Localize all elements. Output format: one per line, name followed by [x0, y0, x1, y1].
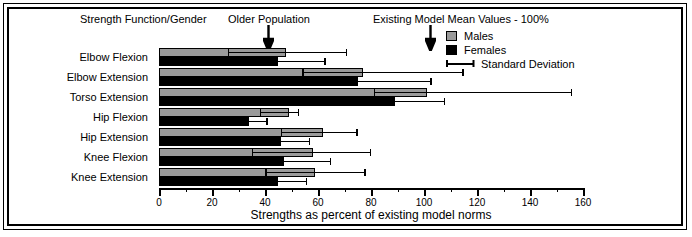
x-tick-major	[265, 188, 267, 196]
error-bar	[305, 81, 432, 83]
error-bar-cap	[345, 98, 347, 105]
error-bar-cap	[265, 169, 267, 176]
error-bar	[302, 72, 464, 74]
error-bar	[236, 161, 331, 163]
error-bar-cap	[374, 89, 376, 96]
figure-container: Strength Function/Gender Older Populatio…	[0, 0, 692, 237]
error-bar-cap	[309, 138, 311, 145]
x-tick-minor	[239, 188, 241, 192]
x-tick-minor	[557, 188, 559, 192]
x-tick-major	[318, 188, 320, 196]
error-bar	[252, 141, 310, 143]
x-tick-label: 100	[416, 197, 433, 208]
males-swatch-icon	[446, 31, 457, 41]
x-tick-minor	[345, 188, 347, 192]
x-tick-minor	[292, 188, 294, 192]
x-tick-major	[159, 188, 161, 196]
category-label: Torso Extension	[70, 92, 148, 103]
error-bar	[265, 172, 366, 174]
error-bar-cap	[281, 129, 283, 136]
error-bar-cap	[228, 58, 230, 65]
error-bar	[246, 181, 307, 183]
header-older-population: Older Population	[228, 13, 310, 25]
error-bar-cap	[228, 49, 230, 56]
x-tick-label: 40	[259, 197, 270, 208]
category-axis-labels: Elbow FlexionElbow ExtensionTorso Extens…	[0, 48, 153, 188]
error-bar-cap	[330, 158, 332, 165]
error-bar	[228, 61, 326, 63]
error-bar-cap	[252, 138, 254, 145]
error-bar	[374, 92, 573, 94]
legend-label-males: Males	[464, 30, 493, 42]
error-bar-cap	[571, 89, 573, 96]
error-bar	[260, 112, 300, 114]
x-axis: 020406080100120140160	[159, 188, 583, 198]
category-label: Elbow Flexion	[80, 52, 148, 63]
error-bar-cap	[260, 109, 262, 116]
error-bar-cap	[364, 169, 366, 176]
header-existing-model: Existing Model Mean Values - 100%	[373, 13, 549, 25]
x-tick-label: 120	[469, 197, 486, 208]
x-tick-label: 60	[312, 197, 323, 208]
plot-area	[159, 48, 583, 188]
category-label: Elbow Extension	[67, 72, 148, 83]
error-bar-cap	[266, 118, 268, 125]
x-tick-major	[583, 188, 585, 196]
error-bar-cap	[356, 129, 358, 136]
category-label: Hip Flexion	[93, 112, 148, 123]
x-tick-major	[477, 188, 479, 196]
error-bar-cap	[370, 149, 372, 156]
x-tick-label: 0	[156, 197, 162, 208]
error-bar-cap	[252, 149, 254, 156]
error-bar-cap	[324, 58, 326, 65]
x-tick-minor	[504, 188, 506, 192]
header-strength-function-gender: Strength Function/Gender	[80, 13, 207, 25]
error-bar-cap	[298, 109, 300, 116]
category-label: Hip Extension	[80, 132, 148, 143]
x-tick-major	[424, 188, 426, 196]
error-bar	[281, 132, 358, 134]
error-bar-cap	[302, 69, 304, 76]
x-tick-minor	[451, 188, 453, 192]
x-tick-minor	[398, 188, 400, 192]
x-tick-label: 140	[522, 197, 539, 208]
x-axis-title: Strengths as percent of existing model n…	[159, 208, 583, 222]
legend-item-males: Males	[446, 29, 676, 42]
x-tick-major	[371, 188, 373, 196]
error-bar-cap	[430, 78, 432, 85]
error-bar-cap	[236, 158, 238, 165]
error-bar	[252, 152, 371, 154]
error-bar-cap	[231, 118, 233, 125]
error-bar	[231, 121, 268, 123]
x-tick-major	[530, 188, 532, 196]
error-bar	[228, 52, 347, 54]
category-label: Knee Extension	[71, 172, 148, 183]
x-tick-label: 20	[206, 197, 217, 208]
error-bar-cap	[462, 69, 464, 76]
error-bar	[345, 101, 446, 103]
error-bar-cap	[346, 49, 348, 56]
error-bar-cap	[306, 178, 308, 185]
x-tick-minor	[186, 188, 188, 192]
error-bar-cap	[246, 178, 248, 185]
error-bar-cap	[444, 98, 446, 105]
error-bar-cap	[305, 78, 307, 85]
category-label: Knee Flexion	[84, 152, 148, 163]
x-tick-major	[212, 188, 214, 196]
x-tick-label: 80	[365, 197, 376, 208]
x-tick-label: 160	[575, 197, 592, 208]
